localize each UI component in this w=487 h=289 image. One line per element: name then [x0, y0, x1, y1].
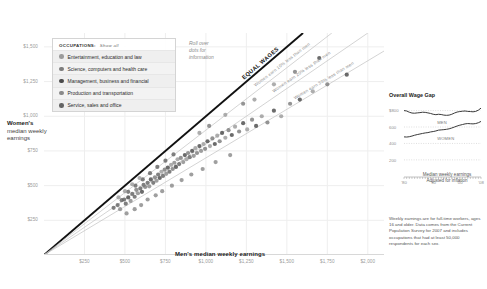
y-tick-label: $1,000	[4, 113, 38, 118]
occupations-legend[interactable]: OCCUPATIONS:Show all Entertainment, educ…	[52, 38, 176, 112]
x-tick-label: $1,500	[267, 259, 307, 264]
overall-wage-gap-chart: $800600400200MENWOMEN'80'90'00'08 Median…	[389, 100, 483, 195]
y-tick-label: $500	[4, 183, 38, 188]
side-panel: Overall Wage Gap $800600400200MENWOMEN'8…	[389, 92, 483, 195]
legend-title: OCCUPATIONS:	[59, 43, 96, 48]
mini-caption-line2: Adjusted for inflation	[427, 178, 468, 183]
legend-item[interactable]: Management, business and financial	[53, 74, 175, 86]
legend-color-dot-icon	[59, 79, 64, 84]
legend-color-dot-icon	[59, 91, 64, 96]
x-tick-label: $1,000	[186, 259, 226, 264]
mini-y-tick-label: $800	[389, 108, 402, 113]
legend-show-all-link[interactable]: Show all	[100, 43, 119, 48]
mini-chart-svg	[389, 100, 483, 180]
legend-header: OCCUPATIONS:Show all	[53, 39, 175, 50]
legend-item[interactable]: Entertainment, education and law	[53, 50, 175, 62]
x-tick-label: $500	[105, 259, 145, 264]
legend-item-label: Science, computers and health care	[68, 66, 148, 72]
legend-color-dot-icon	[59, 103, 64, 108]
x-tick-label: $750	[145, 259, 185, 264]
mini-chart-caption: Median weekly earnings Adjusted for infl…	[411, 172, 483, 184]
mini-series-label-men: MEN	[437, 120, 447, 125]
footnote: Weekly earnings are for full-time worker…	[389, 216, 481, 247]
side-panel-title: Overall Wage Gap	[389, 92, 483, 98]
legend-item-label: Management, business and financial	[68, 78, 149, 84]
legend-item[interactable]: Science, computers and health care	[53, 62, 175, 74]
legend-item-label: Service, sales and office	[68, 102, 122, 108]
mini-y-tick-label: 400	[389, 141, 402, 146]
x-tick-label: $1,250	[226, 259, 266, 264]
y-tick-label: $250	[4, 217, 38, 222]
mini-x-tick-label: '80	[397, 180, 411, 185]
mini-caption-line1: Median weekly earnings	[423, 172, 471, 177]
legend-item-label: Entertainment, education and law	[68, 54, 142, 60]
y-axis-title-rest: median weekly earnings	[7, 128, 47, 142]
legend-item-label: Production and transportation	[68, 90, 134, 96]
y-tick-label: $1,500	[4, 44, 38, 49]
y-axis-title-bold: Women's	[7, 120, 33, 126]
legend-color-dot-icon	[59, 67, 64, 72]
mini-y-tick-label: 600	[389, 125, 402, 130]
legend-color-dot-icon	[59, 54, 64, 59]
x-tick-label: $1,750	[307, 259, 347, 264]
y-tick-label: $750	[4, 148, 38, 153]
rollover-hint: Roll over dots for information	[189, 40, 214, 61]
wage-gap-visualization: $1,500$1,250$1,000$750$500$250 $250$500$…	[0, 0, 487, 289]
x-tick-label: $2,000	[348, 259, 388, 264]
x-axis-title: Men's median weekly earnings	[175, 251, 265, 257]
rollover-hint-line1: Roll over	[189, 40, 209, 46]
mini-series-label-women: WOMEN	[437, 136, 454, 141]
legend-item[interactable]: Production and transportation	[53, 87, 175, 99]
rollover-hint-line3: information	[189, 54, 214, 60]
mini-y-tick-label: 200	[389, 158, 402, 163]
x-tick-label: $250	[64, 259, 104, 264]
y-tick-label: $1,250	[4, 79, 38, 84]
y-axis-title: Women's median weekly earnings	[7, 120, 49, 143]
rollover-hint-line2: dots for	[189, 47, 206, 53]
legend-item[interactable]: Service, sales and office	[53, 99, 175, 111]
